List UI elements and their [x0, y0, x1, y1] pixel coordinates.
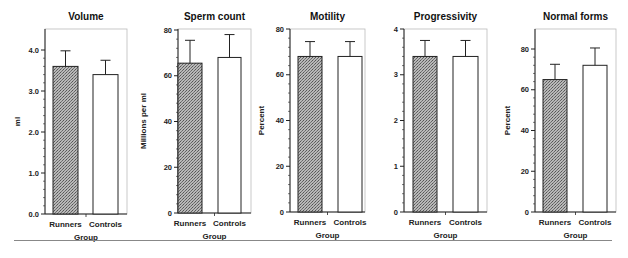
- panel-progressivity: Progressivity Group Runners Controls 012…: [394, 11, 487, 240]
- y-tick-label: 60: [521, 85, 529, 94]
- y-tick-label: 0: [394, 208, 398, 217]
- panel-title: Sperm count: [184, 11, 246, 22]
- bottom-rule-divider: [14, 240, 612, 241]
- bar-runners: [413, 56, 437, 212]
- y-tick-label: 20: [164, 163, 172, 172]
- bar-controls: [583, 65, 607, 212]
- panel-motility: Motility Percent Group Runners Controls …: [257, 11, 367, 240]
- y-axis-label: Percent: [257, 105, 266, 135]
- y-tick-label: 20: [276, 162, 284, 171]
- panel-volume: Volume ml Group Runners Controls 0.01.02…: [13, 11, 127, 242]
- panel-title: Normal forms: [543, 11, 608, 22]
- panel-normal-forms: Normal forms Percent Group Runners Contr…: [503, 11, 616, 240]
- bar-controls: [218, 57, 241, 213]
- bar-runners: [543, 80, 567, 212]
- y-tick-label: 2: [394, 116, 398, 125]
- y-axis-label: ml: [13, 117, 22, 126]
- y-tick-label: 3: [394, 70, 398, 79]
- figure-canvas: Volume ml Group Runners Controls 0.01.02…: [0, 0, 628, 258]
- bar-controls: [338, 56, 362, 212]
- category-label-runners: Runners: [539, 218, 572, 227]
- y-tick-label: 0: [168, 209, 172, 218]
- y-tick-label: 4.0: [29, 46, 39, 55]
- category-label-runners: Runners: [294, 218, 327, 227]
- bar-runners: [53, 66, 78, 214]
- bar-runners: [298, 56, 322, 212]
- x-axis-label: Group: [316, 231, 340, 240]
- bar-controls: [93, 75, 118, 214]
- panel-sperm-count: Sperm count Millions per ml Group Runner…: [139, 11, 251, 241]
- category-label-controls: Controls: [89, 220, 122, 229]
- y-tick-label: 1: [394, 162, 398, 171]
- y-tick-label: 80: [521, 45, 529, 54]
- panel-title: Motility: [310, 11, 345, 22]
- category-label-controls: Controls: [334, 218, 367, 227]
- y-tick-label: 20: [521, 167, 529, 176]
- y-tick-label: 40: [521, 126, 529, 135]
- category-label-runners: Runners: [49, 220, 82, 229]
- y-tick-label: 0: [280, 208, 284, 217]
- category-label-controls: Controls: [449, 218, 482, 227]
- category-label-controls: Controls: [213, 219, 246, 228]
- y-tick-label: 60: [276, 70, 284, 79]
- bar-runners: [178, 63, 202, 213]
- y-tick-label: 0.0: [29, 210, 39, 219]
- category-label-runners: Runners: [409, 218, 442, 227]
- panel-title: Progressivity: [414, 11, 478, 22]
- y-tick-label: 40: [276, 116, 284, 125]
- bar-controls: [453, 56, 478, 212]
- y-tick-label: 0: [525, 208, 529, 217]
- category-label-controls: Controls: [579, 218, 612, 227]
- y-tick-label: 40: [164, 117, 172, 126]
- y-tick-label: 80: [276, 25, 284, 34]
- y-tick-label: 1.0: [29, 169, 39, 178]
- y-tick-label: 3.0: [29, 87, 39, 96]
- x-axis-label: Group: [564, 231, 588, 240]
- y-tick-label: 60: [164, 71, 172, 80]
- y-tick-label: 80: [164, 26, 172, 35]
- y-axis-label: Millions per ml: [139, 93, 148, 149]
- y-tick-label: 2.0: [29, 128, 39, 137]
- panel-title: Volume: [68, 11, 104, 22]
- x-axis-label: Group: [434, 231, 458, 240]
- category-label-runners: Runners: [174, 219, 207, 228]
- y-axis-label: Percent: [503, 105, 512, 135]
- y-tick-label: 4: [394, 25, 399, 34]
